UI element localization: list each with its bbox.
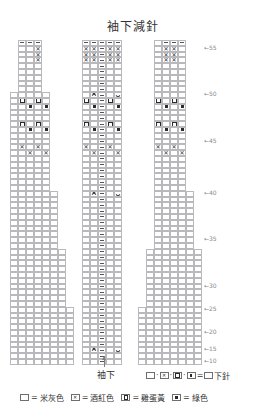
dash-icon bbox=[100, 344, 104, 345]
swatch-open-dot-icon bbox=[173, 372, 182, 379]
row-number-text: 30 bbox=[209, 282, 217, 289]
dash-icon bbox=[100, 321, 104, 322]
legend-label: 綠色 bbox=[192, 392, 208, 403]
dash-icon bbox=[100, 309, 104, 310]
legend-sep: · bbox=[156, 371, 159, 380]
row-arrow-icon: ← bbox=[204, 282, 208, 289]
open-dot-icon bbox=[172, 98, 177, 103]
filled-dot-icon bbox=[117, 128, 120, 131]
open-dot-icon bbox=[36, 122, 41, 127]
dash-icon bbox=[100, 164, 104, 165]
dash-icon bbox=[100, 71, 104, 72]
dash-icon bbox=[100, 251, 104, 252]
dash-icon bbox=[100, 141, 104, 142]
swatch-knit-icon bbox=[204, 372, 213, 379]
row-number-label: ←40 bbox=[204, 189, 217, 196]
dash-icon bbox=[100, 187, 104, 188]
chart-cell bbox=[170, 359, 178, 365]
chart-cell bbox=[106, 359, 114, 365]
dash-icon bbox=[100, 263, 104, 264]
legend-sep: · bbox=[170, 371, 173, 380]
chart-cell bbox=[154, 359, 162, 365]
swatch-cross-icon: ✕ bbox=[160, 372, 169, 379]
decrease-left-icon bbox=[91, 93, 97, 97]
dash-icon bbox=[100, 280, 104, 281]
dash-icon bbox=[100, 269, 104, 270]
chart-cell bbox=[146, 359, 154, 365]
row-arrow-icon: ← bbox=[204, 345, 208, 352]
chart-cell bbox=[114, 359, 122, 365]
dash-icon bbox=[100, 147, 104, 148]
swatch-filled-dot-icon bbox=[172, 394, 181, 401]
legend-item-filled-dot: = 綠色 bbox=[172, 392, 208, 403]
dash-icon bbox=[100, 100, 104, 101]
row-number-label: ←30 bbox=[204, 282, 217, 289]
row-number-text: 20 bbox=[209, 328, 217, 335]
filled-dot-icon bbox=[181, 105, 184, 108]
row-arrow-icon: ← bbox=[204, 189, 208, 196]
dash-icon bbox=[100, 327, 104, 328]
row-arrow-icon: ← bbox=[204, 44, 208, 51]
dash-icon bbox=[100, 234, 104, 235]
dash-icon bbox=[100, 176, 104, 177]
dash-icon bbox=[100, 89, 104, 90]
decrease-right-icon bbox=[115, 348, 121, 352]
dash-icon bbox=[20, 42, 24, 43]
dash-icon bbox=[100, 350, 104, 351]
chart-cell bbox=[186, 359, 194, 365]
filled-dot-icon bbox=[181, 128, 184, 131]
legend-label: 酒紅色 bbox=[90, 392, 114, 403]
row-number-text: 55 bbox=[209, 44, 217, 51]
dash-icon bbox=[100, 257, 104, 258]
chart-cell bbox=[34, 359, 42, 365]
filled-dot-icon bbox=[29, 128, 32, 131]
legend-label: 米灰色 bbox=[40, 392, 64, 403]
dash-icon bbox=[100, 42, 104, 43]
open-dot-icon bbox=[84, 122, 89, 127]
dash-icon bbox=[28, 42, 32, 43]
underarm-arrow-icon bbox=[104, 356, 105, 367]
chart-cell bbox=[82, 359, 90, 365]
legend-equals: = bbox=[197, 371, 204, 380]
dash-icon bbox=[116, 42, 120, 43]
row-number-text: 10 bbox=[209, 357, 217, 364]
legend-knit-rule: · ✕ · · = 下針 bbox=[146, 370, 230, 381]
swatch-cross-icon: ✕ bbox=[71, 394, 80, 401]
dash-icon bbox=[100, 182, 104, 183]
filled-dot-icon bbox=[117, 105, 120, 108]
row-number-label: ←55 bbox=[204, 44, 217, 51]
row-number-label: ←15 bbox=[204, 345, 217, 352]
dash-icon bbox=[100, 216, 104, 217]
open-dot-icon bbox=[20, 98, 25, 103]
row-number-label: ←35 bbox=[204, 235, 217, 242]
legend-sep: · bbox=[183, 371, 186, 380]
row-number-text: 45 bbox=[209, 137, 217, 144]
open-dot-icon bbox=[84, 98, 89, 103]
dash-icon bbox=[100, 77, 104, 78]
dash-icon bbox=[180, 42, 184, 43]
swatch-blank-icon bbox=[146, 372, 155, 379]
dash-icon bbox=[100, 222, 104, 223]
swatch-filled-dot-icon bbox=[187, 372, 196, 379]
decrease-right-icon bbox=[115, 93, 121, 97]
dash-icon bbox=[100, 228, 104, 229]
dash-icon bbox=[100, 193, 104, 194]
row-arrow-icon: ← bbox=[204, 235, 208, 242]
row-arrow-icon: ← bbox=[204, 137, 208, 144]
dash-icon bbox=[92, 42, 96, 43]
open-dot-icon bbox=[20, 122, 25, 127]
swatch-blank-icon bbox=[20, 394, 29, 401]
open-dot-icon bbox=[172, 122, 177, 127]
dash-icon bbox=[172, 42, 176, 43]
dash-icon bbox=[100, 240, 104, 241]
dash-icon bbox=[100, 245, 104, 246]
dash-icon bbox=[84, 42, 88, 43]
legend-knit-label: 下針 bbox=[214, 370, 230, 381]
open-dot-icon bbox=[156, 98, 161, 103]
chart-cell bbox=[162, 359, 170, 365]
dash-icon bbox=[100, 112, 104, 113]
row-arrow-icon: ← bbox=[204, 90, 208, 97]
dash-icon bbox=[100, 66, 104, 67]
open-dot-icon bbox=[156, 122, 161, 127]
filled-dot-icon bbox=[93, 105, 96, 108]
